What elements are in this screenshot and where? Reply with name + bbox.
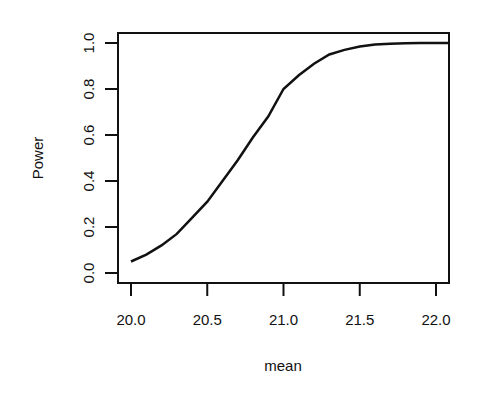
x-tick-label: 21.5: [345, 311, 374, 328]
x-tick-label: 22.0: [421, 311, 450, 328]
x-tick-label: 20.0: [116, 311, 145, 328]
x-tick-label: 21.0: [269, 311, 298, 328]
y-tick-label: 0.2: [80, 217, 97, 238]
y-tick-label: 0.8: [80, 79, 97, 100]
x-tick-label: 20.5: [193, 311, 222, 328]
y-tick-label: 0.0: [80, 263, 97, 284]
y-axis: 0.00.20.40.60.81.0: [80, 33, 118, 284]
y-axis-title: Power: [29, 137, 46, 180]
plot-frame: [118, 33, 449, 283]
x-axis: 20.020.521.021.522.0: [116, 283, 450, 328]
power-curve-chart: 0.00.20.40.60.81.0 20.020.521.021.522.0 …: [0, 0, 484, 410]
x-axis-title: mean: [264, 357, 302, 374]
power-curve-line: [131, 43, 448, 262]
y-tick-label: 0.4: [80, 171, 97, 192]
y-tick-label: 1.0: [80, 33, 97, 54]
y-tick-label: 0.6: [80, 125, 97, 146]
